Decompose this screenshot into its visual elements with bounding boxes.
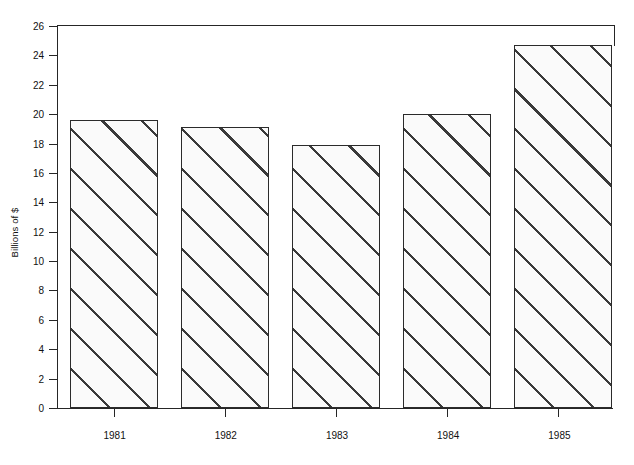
bar [70,120,158,408]
y-axis-tick: 4 [49,349,58,350]
bar [403,114,491,408]
x-axis-tick: 1983 [336,408,337,417]
y-axis-tick: 0 [49,408,58,409]
y-axis-tick-label: 20 [33,108,44,121]
y-axis-tick: 6 [49,320,58,321]
x-axis-tick-label: 1983 [326,430,348,441]
x-axis-tick: 1985 [558,408,559,417]
y-axis-tick-label: 4 [38,343,44,356]
x-axis-tick: 1981 [114,408,115,417]
y-axis-tick-label: 6 [38,314,44,327]
y-axis-tick: 16 [49,173,58,174]
x-axis-tick: 1984 [447,408,448,417]
bar-chart: Billions of $ 02468101214161820222426 19… [0,0,634,465]
plot-area: 02468101214161820222426 1981198219831984… [57,25,615,409]
y-axis-tick-label: 12 [33,226,44,239]
y-axis-tick-label: 0 [38,402,44,415]
y-axis-tick-label: 26 [33,20,44,33]
bar [181,127,269,408]
y-axis-tick: 26 [49,26,58,27]
bar [514,45,612,408]
y-axis-tick-label: 16 [33,167,44,180]
y-axis-tick-label: 2 [38,373,44,386]
x-axis-tick-label: 1984 [437,430,459,441]
y-axis-tick: 10 [49,261,58,262]
x-axis-tick-label: 1982 [215,430,237,441]
y-axis-tick: 20 [49,114,58,115]
y-axis-tick: 2 [49,379,58,380]
y-axis-tick-label: 8 [38,284,44,297]
bar [292,145,380,408]
y-axis-tick: 22 [49,85,58,86]
x-axis-tick-label: 1981 [103,430,125,441]
plot-right-edge-mask [613,46,615,410]
y-axis-tick: 24 [49,55,58,56]
y-axis-title: Billions of $ [2,0,28,465]
y-axis-tick-label: 22 [33,79,44,92]
y-axis-tick: 8 [49,290,58,291]
y-axis-tick-label: 18 [33,138,44,151]
x-axis-tick: 1982 [225,408,226,417]
x-axis-tick-label: 1985 [548,430,570,441]
y-axis-title-label: Billions of $ [10,208,21,258]
y-axis-tick-label: 10 [33,255,44,268]
y-axis-tick: 12 [49,232,58,233]
y-axis-tick: 14 [49,202,58,203]
y-axis-tick-label: 14 [33,196,44,209]
y-axis-tick-label: 24 [33,49,44,62]
y-axis-tick: 18 [49,144,58,145]
